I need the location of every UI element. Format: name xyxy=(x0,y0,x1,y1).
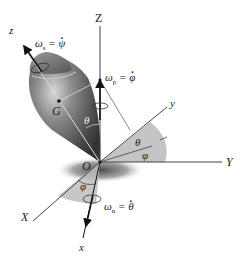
theta-label-plane: θ xyxy=(135,137,140,148)
theta-label-top: θ xyxy=(84,115,89,126)
projection-line xyxy=(100,80,130,130)
precession-point xyxy=(99,79,102,82)
y-axis-label: y xyxy=(170,98,175,109)
psi-dot: ψ xyxy=(58,38,65,49)
subscript: p xyxy=(113,78,117,86)
center-of-mass-point xyxy=(57,99,61,103)
X-axis-label: X xyxy=(21,211,28,223)
phi-label-plane: φ xyxy=(142,150,148,161)
Z-axis-label: Z xyxy=(95,12,102,24)
theta-dot: θ xyxy=(128,201,133,212)
z-axis-label: z xyxy=(9,25,13,36)
omega-symbol: ω xyxy=(104,200,112,212)
x-axis-label: x xyxy=(79,242,84,253)
subscript: n xyxy=(112,207,116,215)
omega-symbol: ω xyxy=(35,37,43,49)
spin-equation: ωs = ψ xyxy=(35,38,65,52)
phi-sector-right xyxy=(100,122,167,162)
phi-dot: φ xyxy=(129,72,135,83)
phi-label-bottom: φ xyxy=(80,181,86,192)
precession-equation: ωp = φ xyxy=(105,72,135,86)
nutation-equation: ωn = θ xyxy=(104,201,134,215)
origin-label: O xyxy=(82,160,91,172)
subscript: s xyxy=(43,44,46,52)
omega-symbol: ω xyxy=(105,71,113,83)
euler-angles-diagram: Z Y X x y z O G θ θ φ φ ωs = ψ ωp = φ ωn… xyxy=(0,0,248,262)
origin-point xyxy=(99,161,102,164)
G-label: G xyxy=(52,105,61,117)
Y-axis-label: Y xyxy=(226,156,233,168)
